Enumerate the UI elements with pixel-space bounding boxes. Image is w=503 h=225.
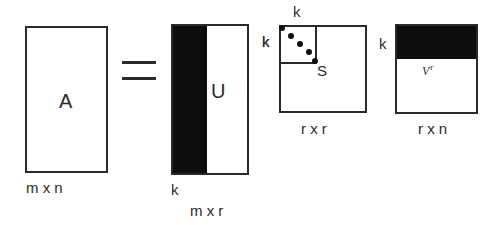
matrix-vt-k-rows bbox=[397, 26, 476, 59]
equals-bar-bottom bbox=[122, 77, 156, 80]
matrix-u-label: U bbox=[211, 81, 225, 101]
matrix-vt-box bbox=[395, 24, 478, 114]
matrix-u-k-bottom: k bbox=[171, 182, 179, 197]
matrix-u-box bbox=[171, 24, 249, 175]
matrix-vt-label: VT bbox=[422, 64, 433, 79]
diagonal-dot-4 bbox=[306, 49, 312, 55]
diagonal-dot-3 bbox=[297, 41, 303, 47]
matrix-s-dims: r x r bbox=[301, 121, 327, 136]
matrix-vt-superscript: T bbox=[429, 64, 433, 72]
matrix-s-label: S bbox=[317, 63, 327, 78]
matrix-a-dims: m x n bbox=[26, 180, 63, 195]
diagonal-dot-1 bbox=[279, 25, 285, 31]
matrix-a-label: A bbox=[59, 91, 72, 111]
matrix-u-k-columns bbox=[173, 26, 207, 173]
equals-bar-top bbox=[122, 61, 156, 64]
matrix-s-k-left: k bbox=[262, 34, 270, 49]
matrix-vt-k-left: k bbox=[379, 36, 387, 51]
matrix-vt-dims: r x n bbox=[418, 121, 447, 136]
matrix-s-k-top: k bbox=[293, 4, 301, 19]
diagonal-dot-2 bbox=[288, 33, 294, 39]
matrix-u-dims: m x r bbox=[190, 203, 223, 218]
